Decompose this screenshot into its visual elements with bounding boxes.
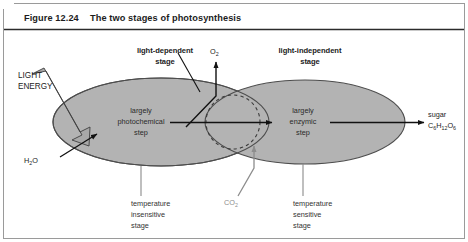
- temperature-insensitive-line3: stage: [131, 221, 149, 230]
- frame-corner-gap: [0, 0, 14, 9]
- light-dependent-heading-line2: stage: [155, 57, 175, 66]
- figure-container: Figure 12.24 The two stages of photosynt…: [0, 0, 468, 242]
- light-independent-heading-line2: stage: [300, 57, 320, 66]
- right-step-line2: enzymic: [290, 117, 317, 126]
- temperature-sensitive-line2: sensitive: [293, 210, 321, 219]
- left-step-line3: step: [134, 128, 148, 137]
- light-energy-label-line2: ENERGY: [18, 82, 53, 91]
- water-label: H2O: [24, 156, 38, 166]
- temperature-sensitive-line3: stage: [293, 221, 311, 230]
- left-step-line1: largely: [130, 106, 152, 115]
- sugar-label: sugar: [428, 110, 447, 119]
- light-independent-heading-line1: light-independent: [279, 46, 342, 55]
- right-step-line3: step: [296, 128, 310, 137]
- temperature-insensitive-line1: temperature: [131, 199, 170, 208]
- figure-title: The two stages of photosynthesis: [90, 13, 241, 23]
- sugar-formula: C6H12O6: [428, 121, 456, 131]
- light-energy-label-line1: LIGHT: [18, 71, 42, 80]
- co2-label: CO2: [224, 198, 238, 208]
- right-step-line1: largely: [292, 106, 314, 115]
- light-dependent-heading-line1: light-dependent: [137, 46, 194, 55]
- figure-number: Figure 12.24: [24, 13, 80, 23]
- oxygen-label: O2: [210, 47, 219, 57]
- temperature-sensitive-line1: temperature: [293, 199, 332, 208]
- temperature-insensitive-line2: insensitive: [131, 210, 165, 219]
- left-step-line2: photochemical: [117, 117, 164, 126]
- photosynthesis-diagram: Figure 12.24 The two stages of photosynt…: [0, 0, 468, 242]
